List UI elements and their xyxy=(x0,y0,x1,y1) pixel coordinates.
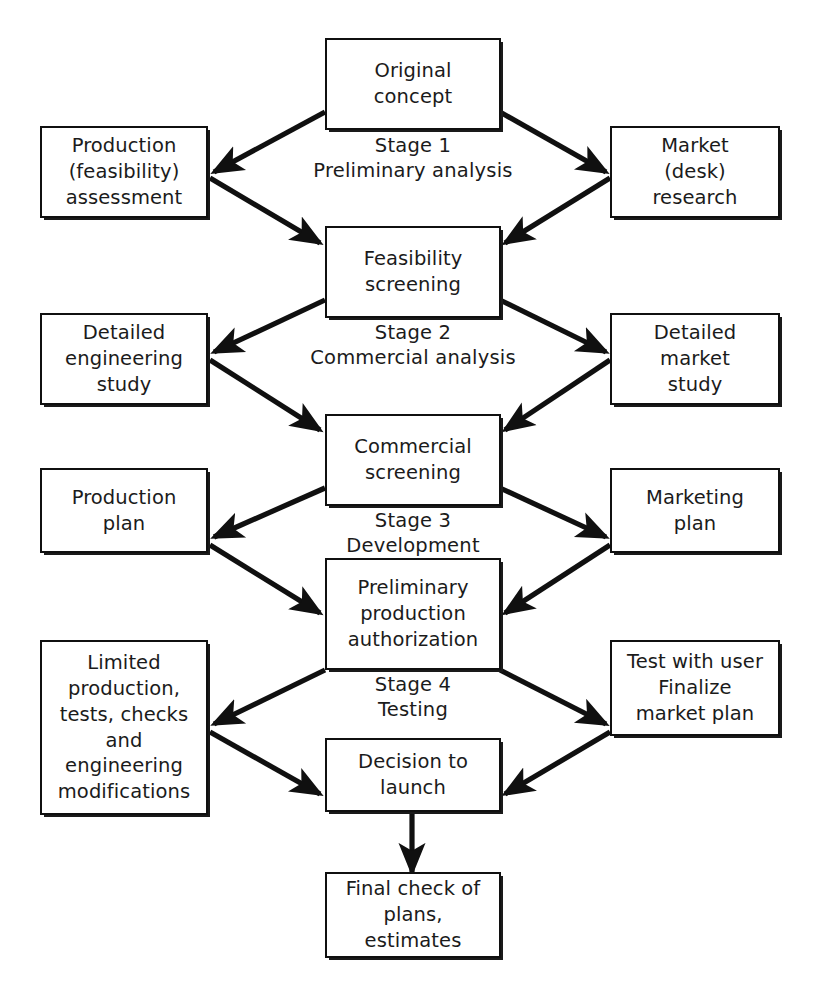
arrow-limited-production-to-decision xyxy=(210,732,320,794)
node-label: Original concept xyxy=(369,58,457,109)
node-test-with-user[interactable]: Test with user Finalize market plan xyxy=(610,640,780,736)
flowchart-canvas: Original concept Stage 1 Preliminary ana… xyxy=(0,0,814,992)
node-feasibility-screening[interactable]: Feasibility screening xyxy=(325,226,501,318)
node-original-concept[interactable]: Original concept xyxy=(325,38,501,130)
node-label: Market (desk) research xyxy=(647,133,742,210)
node-label: Detailed market study xyxy=(649,320,742,397)
stage-2-label: Stage 2 Commercial analysis xyxy=(258,320,568,371)
node-detailed-market-study[interactable]: Detailed market study xyxy=(610,313,780,405)
node-label: Commercial screening xyxy=(349,434,477,485)
node-label: Feasibility screening xyxy=(359,246,468,297)
node-label: Production (feasibility) assessment xyxy=(61,133,188,210)
node-preliminary-production-authorization[interactable]: Preliminary production authorization xyxy=(325,558,501,670)
node-label: Preliminary production authorization xyxy=(343,575,484,652)
node-detailed-engineering-study[interactable]: Detailed engineering study xyxy=(40,313,208,405)
node-limited-production[interactable]: Limited production, tests, checks and en… xyxy=(40,640,208,815)
node-final-check[interactable]: Final check of plans, estimates xyxy=(325,872,501,958)
node-label: Limited production, tests, checks and en… xyxy=(53,650,196,804)
node-label: Test with user Finalize market plan xyxy=(622,649,768,726)
node-label: Marketing plan xyxy=(641,485,749,536)
node-label: Decision to launch xyxy=(353,749,473,800)
node-decision-to-launch[interactable]: Decision to launch xyxy=(325,738,501,812)
stage-4-label: Stage 4 Testing xyxy=(258,672,568,723)
node-production-feasibility-assessment[interactable]: Production (feasibility) assessment xyxy=(40,126,208,218)
node-market-desk-research[interactable]: Market (desk) research xyxy=(610,126,780,218)
node-production-plan[interactable]: Production plan xyxy=(40,468,208,553)
node-marketing-plan[interactable]: Marketing plan xyxy=(610,468,780,553)
arrow-test-with-user-to-decision xyxy=(505,732,610,794)
stage-1-label: Stage 1 Preliminary analysis xyxy=(258,133,568,184)
arrow-market-to-feasibility xyxy=(505,178,610,243)
node-label: Production plan xyxy=(67,485,182,536)
node-label: Detailed engineering study xyxy=(60,320,188,397)
arrow-production-to-feasibility xyxy=(210,178,320,243)
node-label: Final check of plans, estimates xyxy=(327,876,499,953)
stage-3-label: Stage 3 Development xyxy=(258,508,568,559)
node-commercial-screening[interactable]: Commercial screening xyxy=(325,414,501,506)
